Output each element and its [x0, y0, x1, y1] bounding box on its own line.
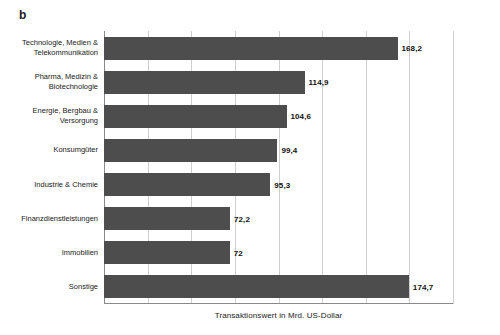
bar-row: 72 — [104, 241, 453, 264]
gridline-200 — [453, 31, 454, 304]
category-label-line: Technologie, Medien & — [22, 38, 98, 48]
bar-value-label: 174,7 — [413, 282, 434, 291]
category-label-line: Versorgung — [33, 116, 98, 126]
category-label-line: Sonstige — [69, 282, 98, 292]
bar-row: 72,2 — [104, 207, 453, 230]
plot-area: 168,2114,9104,699,495,372,272174,7 — [104, 31, 453, 304]
category-label-line: Industrie & Chemie — [34, 180, 98, 190]
category-label: Finanzdienstleistungen — [0, 207, 98, 230]
category-label-line: Biotechnologie — [35, 82, 98, 92]
category-label: Sonstige — [0, 275, 98, 298]
bar-row: 168,2 — [104, 37, 453, 60]
bar-value-label: 95,3 — [274, 180, 290, 189]
bar-row: 104,6 — [104, 105, 453, 128]
figure-panel-b: b Technologie, Medien &Telekommunikation… — [0, 0, 500, 335]
category-label: Energie, Bergbau &Versorgung — [0, 105, 98, 128]
bar[interactable] — [104, 105, 287, 128]
bar-series: 168,2114,9104,699,495,372,272174,7 — [104, 31, 453, 304]
bar-value-label: 114,9 — [309, 78, 329, 87]
bar[interactable] — [104, 207, 230, 230]
bar-value-label: 104,6 — [291, 112, 312, 121]
category-label-line: Finanzdienstleistungen — [21, 214, 98, 224]
category-label: Technologie, Medien &Telekommunikation — [0, 37, 98, 60]
bar-value-label: 72,2 — [234, 214, 250, 223]
bar-row: 95,3 — [104, 173, 453, 196]
category-axis-labels: Technologie, Medien &TelekommunikationPh… — [0, 31, 98, 304]
bar-value-label: 99,4 — [281, 146, 297, 155]
bar[interactable] — [104, 241, 230, 264]
bar[interactable] — [104, 275, 409, 298]
category-label-line: Pharma, Medizin & — [35, 72, 98, 82]
panel-label: b — [19, 8, 27, 22]
bar-value-label: 168,2 — [402, 44, 423, 53]
bar[interactable] — [104, 71, 305, 94]
bar[interactable] — [104, 173, 270, 196]
bar-value-label: 72 — [234, 248, 243, 257]
category-label-line: Konsumgüter — [53, 145, 98, 155]
bar-row: 174,7 — [104, 275, 453, 298]
category-label-line: Energie, Bergbau & — [33, 106, 98, 116]
category-label: Konsumgüter — [0, 139, 98, 162]
bar[interactable] — [104, 139, 277, 162]
category-label-line: Telekommunikation — [22, 48, 98, 58]
category-label: Industrie & Chemie — [0, 173, 98, 196]
bar-row: 114,9 — [104, 71, 453, 94]
category-label-line: Immobilien — [62, 248, 98, 258]
bar-row: 99,4 — [104, 139, 453, 162]
x-axis-title: Transaktionswert in Mrd. US-Dollar — [104, 311, 453, 320]
category-label: Immobilien — [0, 241, 98, 264]
bar[interactable] — [104, 37, 398, 60]
category-label: Pharma, Medizin &Biotechnologie — [0, 71, 98, 94]
